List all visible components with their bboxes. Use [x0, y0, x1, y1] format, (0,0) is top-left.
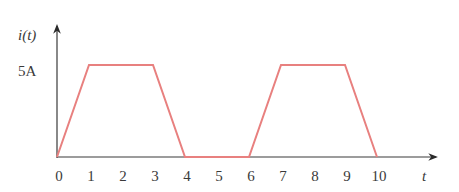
x-tick-label: 10 — [372, 168, 387, 184]
x-tick-label: 8 — [311, 168, 319, 184]
x-tick-labels: 012345678910 — [55, 168, 386, 184]
y-tick-label: 5A — [18, 63, 37, 79]
x-tick-label: 0 — [55, 168, 63, 184]
x-tick-label: 6 — [247, 168, 255, 184]
x-tick-label: 5 — [215, 168, 223, 184]
x-tick-label: 4 — [183, 168, 191, 184]
x-tick-label: 2 — [119, 168, 127, 184]
x-tick-label: 9 — [343, 168, 351, 184]
current-waveform-chart: i(t) t 012345678910 5A — [0, 0, 459, 192]
axes: i(t) t — [18, 26, 436, 184]
x-tick-label: 1 — [87, 168, 95, 184]
x-tick-label: 3 — [151, 168, 159, 184]
y-axis-label: i(t) — [18, 27, 36, 44]
y-tick-labels: 5A — [18, 63, 37, 79]
series-line-current — [57, 65, 377, 157]
series-group — [57, 65, 377, 157]
x-tick-label: 7 — [279, 168, 287, 184]
x-axis-label: t — [422, 168, 427, 184]
